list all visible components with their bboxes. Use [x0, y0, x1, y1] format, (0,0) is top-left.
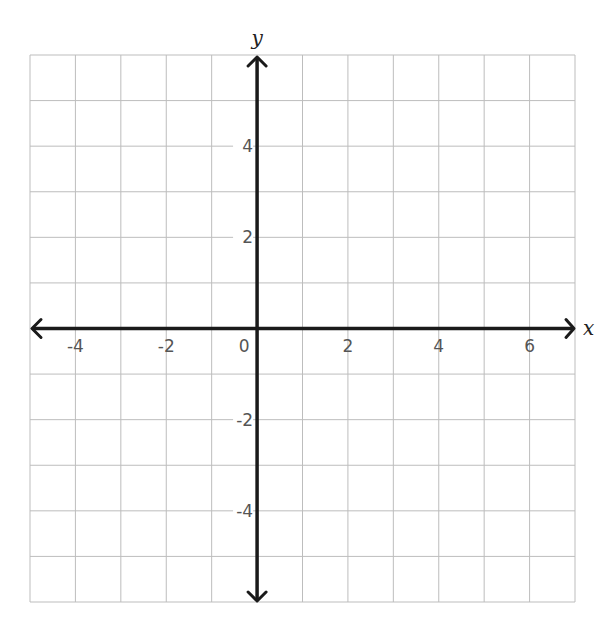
- y-tick-label: -4: [236, 501, 253, 521]
- y-tick-label: 4: [242, 136, 253, 156]
- y-axis-label: y: [250, 26, 263, 50]
- x-tick-label: 2: [343, 336, 354, 356]
- x-tick-label: -4: [67, 336, 84, 356]
- x-axis-label: x: [583, 316, 594, 340]
- y-tick-label: -2: [236, 410, 253, 430]
- x-tick-label: -2: [158, 336, 175, 356]
- x-tick-label: 6: [524, 336, 535, 356]
- y-tick-label: 2: [242, 227, 253, 247]
- origin-label: 0: [239, 336, 250, 356]
- coordinate-plane: -4-224642-2-40 x y: [0, 0, 615, 643]
- x-tick-label: 4: [433, 336, 444, 356]
